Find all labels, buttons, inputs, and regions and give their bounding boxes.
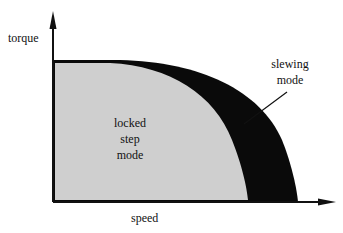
slewing-label-line-2: mode xyxy=(277,73,304,87)
torque-speed-diagram: torque speed locked step mode slewing mo… xyxy=(0,0,343,233)
slewing-label-line-1: slewing xyxy=(271,57,308,71)
locked-label-line-3: mode xyxy=(117,148,144,162)
x-axis-arrow-icon xyxy=(318,199,336,206)
y-axis-label: torque xyxy=(8,31,39,45)
y-axis-arrow-icon xyxy=(50,11,57,29)
locked-label-line-2: step xyxy=(120,132,139,146)
locked-label-line-1: locked xyxy=(114,116,146,130)
x-axis-label: speed xyxy=(131,211,158,225)
